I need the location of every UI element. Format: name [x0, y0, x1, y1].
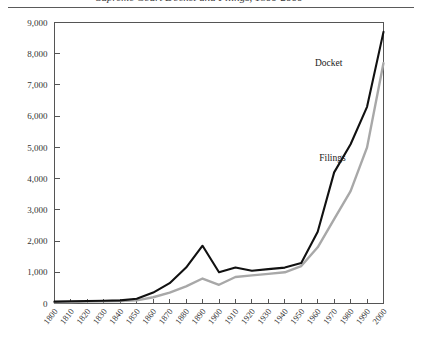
x-axis-tick-label: 1920: [239, 307, 257, 327]
y-axis-ticks: [55, 23, 60, 273]
x-axis-labels: 1800181018201830184018501860187018801890…: [41, 307, 388, 327]
x-axis-tick-label: 1980: [337, 307, 355, 327]
series-line-filings: [55, 63, 384, 302]
y-axis-tick-label: 8,000: [27, 49, 48, 59]
x-axis-tick-label: 1900: [206, 307, 224, 327]
x-axis-tick-label: 1850: [123, 307, 141, 327]
y-axis-labels: 01,0002,0003,0004,0005,0006,0007,0008,00…: [27, 18, 48, 309]
x-axis-tick-label: 1910: [222, 307, 240, 327]
x-axis-tick-label: 1820: [74, 307, 92, 327]
y-axis-tick-label: 4,000: [27, 174, 48, 184]
y-axis-tick-label: 7,000: [27, 80, 48, 90]
x-axis-tick-label: 2000: [370, 307, 388, 327]
x-axis-tick-label: 1960: [304, 307, 322, 327]
figure-container: Supreme Court Docket and Filings, 1800-2…: [0, 0, 422, 345]
x-axis-tick-label: 1930: [255, 307, 273, 327]
x-axis-tick-label: 1940: [272, 307, 290, 327]
x-axis-tick-label: 1950: [288, 307, 306, 327]
y-axis-tick-label: 9,000: [27, 18, 48, 28]
y-axis-tick-label: 6,000: [27, 111, 48, 121]
y-axis-tick-label: 1,000: [27, 267, 48, 277]
x-axis-tick-label: 1810: [58, 307, 76, 327]
y-axis-tick-label: 0: [43, 299, 48, 309]
line-chart: 01,0002,0003,0004,0005,0006,0007,0008,00…: [0, 0, 422, 345]
series-line-docket: [55, 32, 384, 302]
series-annotation-docket: Docket: [315, 58, 343, 68]
x-axis-tick-label: 1840: [107, 307, 125, 327]
y-axis-tick-label: 2,000: [27, 236, 48, 246]
x-axis-tick-label: 1800: [41, 307, 59, 327]
y-axis-tick-label: 5,000: [27, 143, 48, 153]
series-annotation-filings: Filings: [319, 153, 346, 163]
x-axis-tick-label: 1990: [354, 307, 372, 327]
x-axis-tick-label: 1830: [91, 307, 109, 327]
x-axis-tick-label: 1970: [321, 307, 339, 327]
series-annotations: DocketFilings: [315, 58, 346, 163]
chart-series: [55, 32, 384, 302]
y-axis-tick-label: 3,000: [27, 205, 48, 215]
x-axis-tick-label: 1880: [173, 307, 191, 327]
x-axis-tick-label: 1860: [140, 307, 158, 327]
x-axis-tick-label: 1890: [189, 307, 207, 327]
x-axis-tick-label: 1870: [156, 307, 174, 327]
